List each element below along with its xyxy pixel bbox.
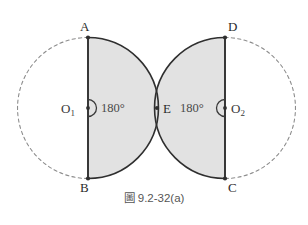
angle-label-o2: 180° <box>180 102 204 115</box>
point-marker-a <box>86 35 90 39</box>
center-label-o1-subscript: 1 <box>70 108 75 118</box>
geometry-figure: A B C D E O1 O2 180° 180° 圖 9.2-32(a) <box>0 0 308 225</box>
vertex-label-e: E <box>163 102 171 115</box>
point-marker-d <box>223 35 227 39</box>
point-marker-o2 <box>223 106 227 110</box>
center-label-o2: O2 <box>231 102 245 115</box>
vertex-label-d: D <box>228 20 237 33</box>
point-marker-e <box>155 106 159 110</box>
point-marker-c <box>223 176 227 180</box>
vertex-label-a: A <box>80 20 89 33</box>
center-label-o1: O1 <box>61 102 75 115</box>
dashed-arc-left-circle <box>18 38 88 179</box>
angle-label-o1: 180° <box>101 102 125 115</box>
center-label-o2-base: O <box>231 101 240 116</box>
point-marker-o1 <box>86 106 90 110</box>
center-label-o1-base: O <box>61 101 70 116</box>
center-label-o2-subscript: 2 <box>240 108 245 118</box>
figure-caption: 圖 9.2-32(a) <box>0 192 308 206</box>
